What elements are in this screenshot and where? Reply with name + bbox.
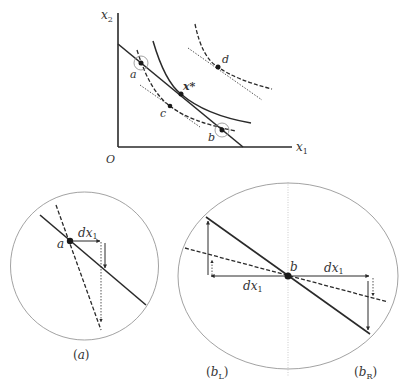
panel-b: b dx1 dx1 (bL) (bR) — [178, 182, 398, 381]
diagram-canvas: x2 x1 O a x* c b d — [0, 0, 410, 388]
point-d — [216, 65, 221, 70]
indifference-curve-zoom-a — [56, 205, 101, 330]
point-b-zoom-label: b — [290, 260, 298, 274]
point-a — [139, 61, 144, 66]
panel-a-caption: (a) — [73, 348, 90, 362]
zoom-circle-a — [11, 192, 159, 340]
point-c-label: c — [160, 107, 166, 120]
point-d-label: d — [222, 53, 229, 66]
x-axis-label: x1 — [296, 140, 308, 156]
point-b-label: b — [208, 131, 215, 144]
dx1-label-right: dx1 — [324, 261, 344, 276]
panel-bl-caption: (bL) — [206, 365, 228, 381]
origin-label: O — [106, 153, 115, 166]
top-figure: x2 x1 O a x* c b d — [101, 8, 308, 166]
panel-br-caption: (bR) — [354, 365, 377, 381]
indifference-curve-d — [195, 24, 272, 89]
point-a-label: a — [130, 68, 137, 81]
dx1-label-a: dx1 — [78, 226, 98, 241]
point-b — [220, 128, 225, 133]
point-x-star-label: x* — [182, 80, 196, 93]
dx1-label-left: dx1 — [243, 279, 263, 294]
budget-line-zoom-a — [40, 215, 146, 305]
point-a-zoom-label: a — [57, 237, 64, 251]
point-a-zoom — [67, 238, 73, 244]
point-c — [168, 104, 173, 109]
panel-a: a dx1 (a) — [11, 192, 159, 362]
y-axis-label: x2 — [101, 8, 113, 24]
indifference-curve-optimal — [153, 41, 251, 123]
